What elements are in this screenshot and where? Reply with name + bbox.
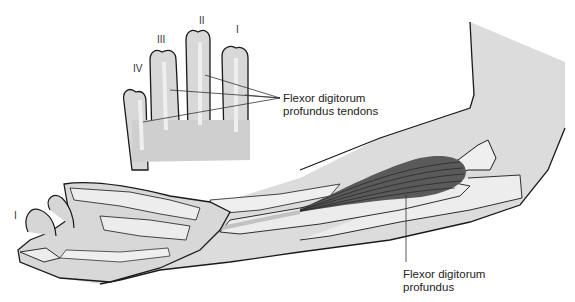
finger-numeral-II: II [199, 15, 205, 26]
thumb-numeral: I [14, 210, 17, 221]
muscle-label-line1: Flexor digitorum [403, 268, 485, 281]
anatomy-illustration [0, 0, 575, 302]
finger-numeral-IV: IV [133, 63, 142, 74]
muscle-label-line2: profundus [403, 281, 485, 294]
finger-numeral-III: III [157, 34, 165, 45]
muscle-label: Flexor digitorum profundus [403, 268, 485, 294]
tendons-label: Flexor digitorum profundus tendons [283, 92, 378, 118]
finger-numeral-I: I [236, 24, 239, 35]
tendons-label-line1: Flexor digitorum [283, 92, 378, 105]
inset-hand [124, 30, 280, 170]
hand [18, 183, 230, 282]
tendons-label-line2: profundus tendons [283, 105, 378, 118]
